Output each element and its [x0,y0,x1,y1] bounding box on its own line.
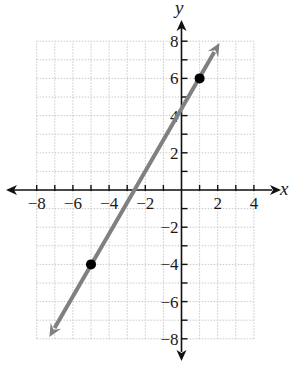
x-tick-label: −8 [28,194,46,213]
y-tick-label: −2 [160,218,178,237]
y-tick-label: −8 [160,330,178,349]
axes [6,20,281,361]
x-tick-label: −2 [136,194,154,213]
x-axis-label: x [279,178,289,199]
y-tick-label: 8 [170,32,179,51]
data-point [86,259,96,269]
y-tick-label: −6 [160,293,178,312]
coordinate-plane: −8−6−4−2248642−2−4−6−8 x y [0,0,293,365]
x-tick-label: 2 [213,194,222,213]
y-tick-label: 2 [170,144,179,163]
x-tick-label: −6 [64,194,82,213]
y-tick-label: 6 [170,69,179,88]
y-tick-label: −4 [160,255,179,274]
x-tick-label: 4 [250,194,259,213]
x-tick-label: −4 [100,194,119,213]
data-point [195,73,205,83]
y-axis-label: y [173,0,184,18]
